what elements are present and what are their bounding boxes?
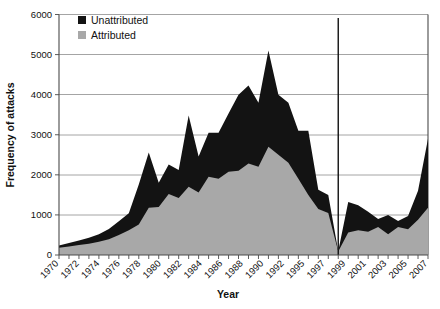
plot-areas xyxy=(59,51,428,255)
x-tick-label-1992: 1992 xyxy=(263,258,286,281)
y-tick-label-1000: 1000 xyxy=(31,209,52,220)
y-tick-label-3000: 3000 xyxy=(31,129,52,140)
x-axis-tick-labels: 1970197219741976197819801982198419861988… xyxy=(38,258,430,281)
x-tick-label-1995: 1995 xyxy=(284,258,307,281)
x-tick-label-1990: 1990 xyxy=(243,258,266,281)
x-axis-title: Year xyxy=(217,288,239,300)
x-tick-label-1976: 1976 xyxy=(99,258,122,281)
x-tick-label-1982: 1982 xyxy=(161,258,184,281)
legend-swatch-attributed xyxy=(78,31,86,39)
x-tick-label-1970: 1970 xyxy=(38,258,61,281)
x-tick-label-1997: 1997 xyxy=(304,258,327,281)
y-tick-label-6000: 6000 xyxy=(31,9,52,20)
x-tick-label-1999: 1999 xyxy=(325,258,348,281)
x-tick-label-1986: 1986 xyxy=(202,258,225,281)
y-axis-ticks: 0100020003000400050006000 xyxy=(31,9,59,261)
x-tick-label-1978: 1978 xyxy=(120,258,143,281)
x-tick-label-1972: 1972 xyxy=(58,258,81,281)
chart-container: 0100020003000400050006000 19701972197419… xyxy=(0,0,440,309)
y-axis-title: Frequency of attacks xyxy=(4,82,16,187)
y-tick-label-4000: 4000 xyxy=(31,89,52,100)
x-tick-label-1984: 1984 xyxy=(181,258,204,281)
y-tick-label-5000: 5000 xyxy=(31,49,52,60)
x-tick-label-2003: 2003 xyxy=(366,258,389,281)
x-tick-label-1980: 1980 xyxy=(140,258,163,281)
legend-label-attributed: Attributed xyxy=(91,29,136,41)
legend-swatch-unattributed xyxy=(78,16,86,24)
x-tick-label-2007: 2007 xyxy=(407,258,430,281)
area-chart-figure: 0100020003000400050006000 19701972197419… xyxy=(0,0,440,309)
x-tick-label-2005: 2005 xyxy=(386,258,409,281)
legend: Unattributed Attributed xyxy=(78,14,148,41)
legend-label-unattributed: Unattributed xyxy=(91,14,148,26)
y-tick-label-2000: 2000 xyxy=(31,169,52,180)
x-tick-label-2001: 2001 xyxy=(345,258,368,281)
x-tick-label-1988: 1988 xyxy=(222,258,245,281)
x-tick-label-1974: 1974 xyxy=(79,258,102,281)
